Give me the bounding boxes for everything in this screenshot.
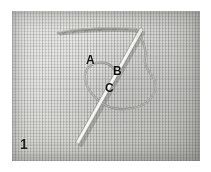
figure-number: 1: [20, 137, 28, 151]
callout-label-b: B: [113, 65, 122, 77]
callout-label-c: C: [105, 82, 114, 94]
figure-root: A B C 1: [0, 0, 211, 172]
callout-label-a: A: [86, 54, 95, 66]
fabric-swatch-photo: A B C 1: [12, 11, 200, 161]
